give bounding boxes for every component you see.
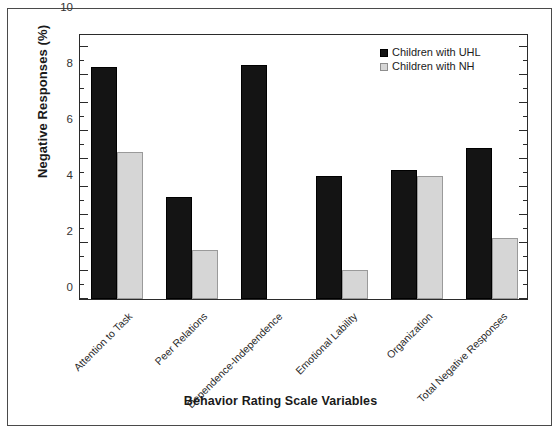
x-tick-label: Peer Relations <box>153 310 210 367</box>
legend-swatch-nh <box>380 63 388 71</box>
y-tick-label: 0 <box>67 281 73 293</box>
chart-legend: Children with UHLChildren with NH <box>380 47 481 75</box>
bar-nh <box>417 176 443 299</box>
bar-uhl <box>391 170 417 299</box>
bar-nh <box>342 270 368 299</box>
bar-uhl <box>466 148 492 299</box>
y-tick-label: 2 <box>67 225 73 237</box>
bar-nh <box>492 238 518 299</box>
x-axis-tick-labels: Attention to TaskPeer RelationsDependenc… <box>79 310 528 392</box>
bar-nh <box>117 152 143 299</box>
y-tick-label: 6 <box>67 113 73 125</box>
plot-area: 024681012141618 Children with UHLChildre… <box>79 34 528 300</box>
bar-uhl <box>91 67 117 299</box>
bar-uhl <box>316 176 342 299</box>
legend-item: Children with UHL <box>380 47 481 58</box>
legend-swatch-uhl <box>380 49 388 57</box>
y-tick-label: 4 <box>67 169 73 181</box>
legend-item: Children with NH <box>380 61 481 72</box>
x-tick-label: Emotional Lability <box>293 310 360 377</box>
x-tick-label: Attention to Task <box>72 310 135 373</box>
bar-uhl <box>166 197 192 299</box>
legend-label: Children with UHL <box>392 47 481 58</box>
figure-frame: Negative Responses (%) 024681012141618 C… <box>7 8 552 426</box>
bar-nh <box>192 250 218 299</box>
legend-label: Children with NH <box>392 61 475 72</box>
y-axis-title: Negative Responses (%) <box>35 0 50 222</box>
x-axis-title: Behavior Rating Scale Variables <box>8 394 553 408</box>
x-tick-label: Organization <box>384 310 435 361</box>
bar-uhl <box>241 65 267 299</box>
y-tick-label: 8 <box>67 57 73 69</box>
y-tick-label: 10 <box>60 1 73 13</box>
